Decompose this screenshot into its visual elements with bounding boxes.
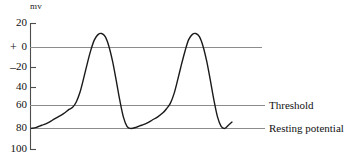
y-tick-label-neg60: 60 [0, 99, 27, 110]
y-axis-unit-label: mv [30, 1, 42, 11]
threshold-label: Threshold [269, 100, 314, 111]
y-tick-label-20: 20 [0, 17, 27, 28]
resting-potential-label: Resting potential [269, 123, 344, 134]
action-potential-figure: mv + – 20 0 20 40 60 80 100 Threshold Re… [0, 0, 344, 160]
y-tick-label-neg40: 40 [0, 81, 27, 92]
y-tick-label-neg100: 100 [0, 143, 27, 154]
plot-area [0, 0, 344, 160]
y-tick-label-neg20: 20 [0, 61, 27, 72]
y-tick-label-neg80: 80 [0, 122, 27, 133]
y-tick-label-0: 0 [0, 41, 27, 52]
